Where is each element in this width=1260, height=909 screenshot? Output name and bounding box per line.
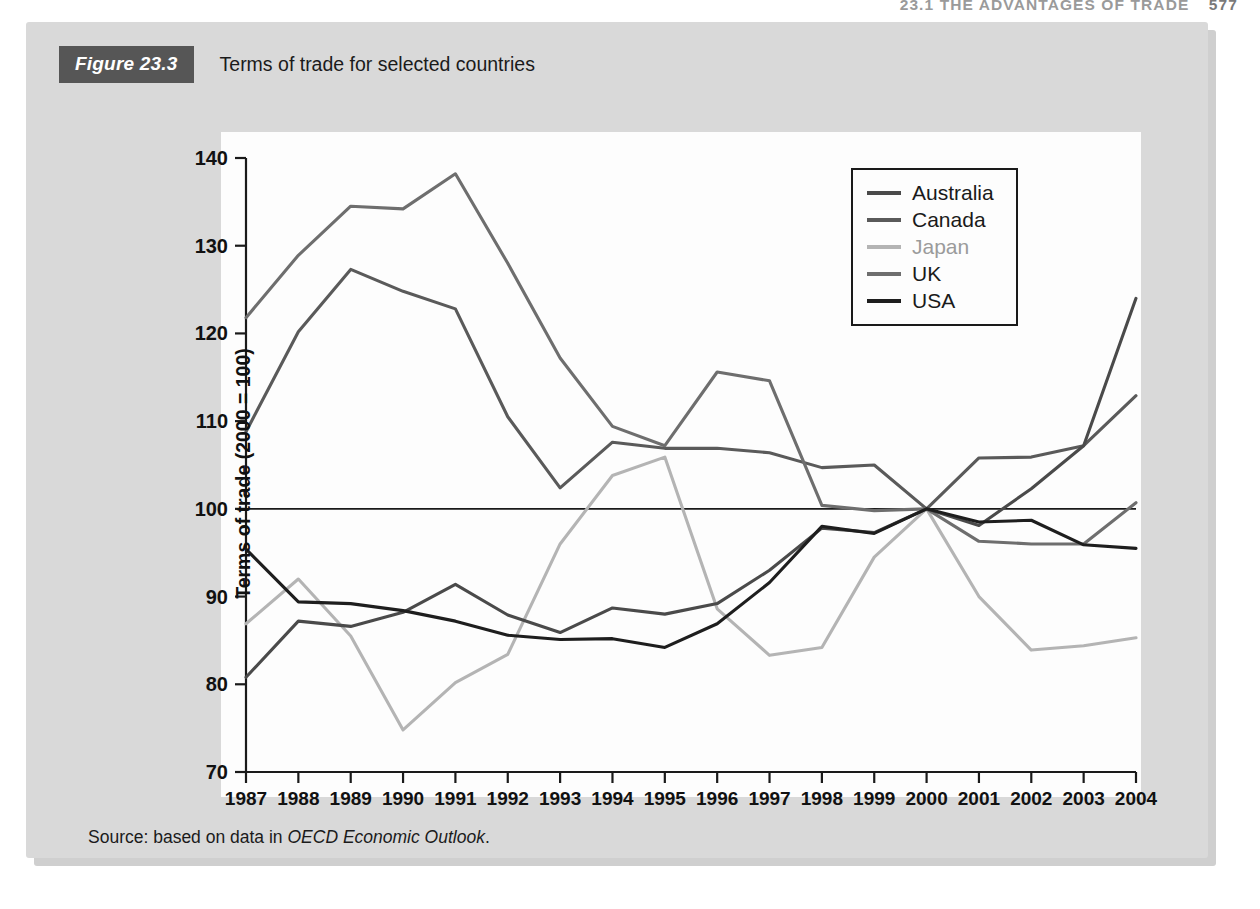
- x-axis-tick-label: 1998: [792, 788, 852, 810]
- legend-item-label: Canada: [912, 209, 986, 230]
- legend-item-label: UK: [912, 263, 941, 284]
- y-axis-tick-label: 110: [168, 410, 228, 433]
- source-title: OECD Economic Outlook: [287, 827, 484, 847]
- x-axis-tick-label: 2004: [1106, 788, 1166, 810]
- chart-legend: AustraliaCanadaJapanUKUSA: [851, 168, 1018, 326]
- x-axis-tick-label: 1999: [844, 788, 904, 810]
- x-axis-tick-label: 1987: [216, 788, 276, 810]
- y-axis-tick-label: 80: [168, 673, 228, 696]
- legend-swatch-icon: [867, 245, 901, 249]
- chart-plot-area: Terms of trade (2000 = 100) AustraliaCan…: [221, 132, 1141, 797]
- running-head-page-number: 577: [1209, 0, 1238, 13]
- x-axis-tick-label: 1995: [635, 788, 695, 810]
- legend-swatch-icon: [867, 191, 901, 195]
- legend-item-japan[interactable]: Japan: [867, 233, 994, 260]
- running-head: 23.1 THE ADVANTAGES OF TRADE 577: [0, 0, 1260, 18]
- x-axis-tick-label: 1997: [740, 788, 800, 810]
- x-axis-tick-label: 1994: [582, 788, 642, 810]
- source-suffix: .: [485, 827, 490, 847]
- source-prefix: Source: based on data in: [88, 827, 287, 847]
- x-axis-tick-label: 1989: [321, 788, 381, 810]
- legend-item-australia[interactable]: Australia: [867, 179, 994, 206]
- legend-item-label: Australia: [912, 182, 994, 203]
- y-axis-tick-label: 130: [168, 235, 228, 258]
- x-axis-tick-label: 2000: [897, 788, 957, 810]
- running-head-chapter-title: 23.1 THE ADVANTAGES OF TRADE: [900, 0, 1190, 13]
- x-axis-tick-label: 1991: [425, 788, 485, 810]
- figure-caption-title: Terms of trade for selected countries: [220, 53, 535, 76]
- figure-source-note: Source: based on data in OECD Economic O…: [88, 827, 490, 848]
- legend-swatch-icon: [867, 299, 901, 303]
- legend-item-label: USA: [912, 290, 955, 311]
- x-axis-tick-label: 1988: [268, 788, 328, 810]
- figure-caption-bar: Figure 23.3 Terms of trade for selected …: [59, 46, 535, 82]
- y-axis-tick-label: 70: [168, 761, 228, 784]
- y-axis-tick-label: 140: [168, 147, 228, 170]
- x-axis-tick-label: 1992: [478, 788, 538, 810]
- legend-item-label: Japan: [912, 236, 969, 257]
- legend-swatch-icon: [867, 272, 901, 276]
- x-axis-tick-label: 1996: [687, 788, 747, 810]
- x-axis-tick-label: 2002: [1001, 788, 1061, 810]
- figure-number-badge: Figure 23.3: [59, 46, 194, 83]
- x-axis-tick-label: 2003: [1054, 788, 1114, 810]
- legend-item-usa[interactable]: USA: [867, 287, 994, 314]
- legend-item-canada[interactable]: Canada: [867, 206, 994, 233]
- x-axis-tick-label: 1993: [530, 788, 590, 810]
- y-axis-tick-label: 90: [168, 586, 228, 609]
- y-axis-title: Terms of trade (2000 = 100): [232, 244, 255, 704]
- legend-item-uk[interactable]: UK: [867, 260, 994, 287]
- figure-panel: Figure 23.3 Terms of trade for selected …: [26, 22, 1208, 858]
- legend-swatch-icon: [867, 218, 901, 222]
- y-axis-tick-label: 120: [168, 322, 228, 345]
- x-axis-tick-label: 2001: [949, 788, 1009, 810]
- y-axis-tick-label: 100: [168, 498, 228, 521]
- x-axis-tick-label: 1990: [373, 788, 433, 810]
- running-head-inner: 23.1 THE ADVANTAGES OF TRADE 577: [900, 0, 1238, 14]
